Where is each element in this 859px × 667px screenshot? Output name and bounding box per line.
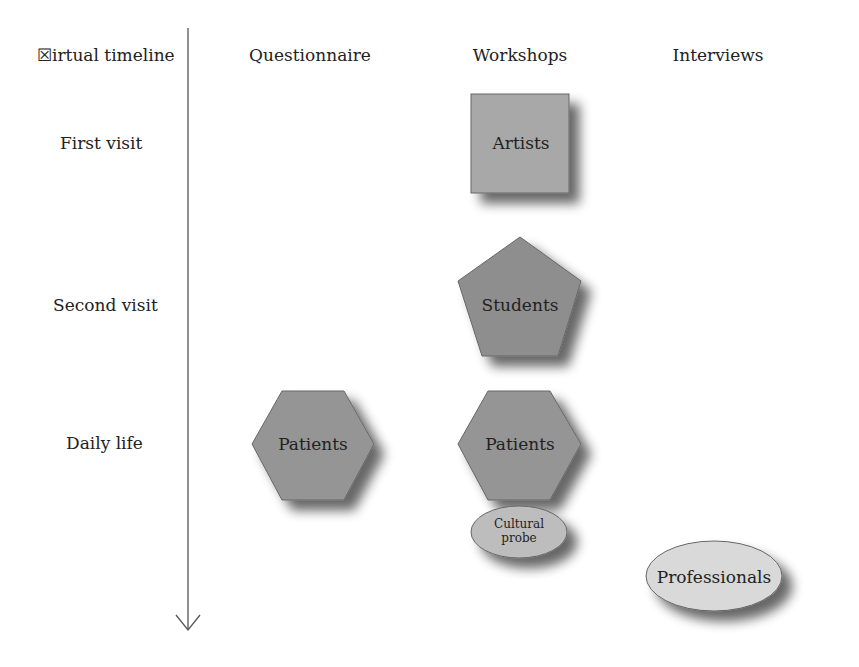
axis-title: ☒irtual timeline [37,45,175,65]
professionals-label: Professionals [657,567,772,587]
column-header-workshops: Workshops [473,45,568,65]
column-header-interviews: Interviews [672,45,763,65]
patients-workshops-label: Patients [485,434,555,454]
artists-label: Artists [493,133,550,153]
cultural-probe-label-line1: Cultural [494,517,544,531]
cultural-probe-label-line2: probe [494,531,544,545]
cultural-probe-label: Cultural probe [494,517,544,545]
column-header-questionnaire: Questionnaire [249,45,371,65]
timeline-arrow [176,28,200,630]
row-label-second-visit: Second visit [53,295,158,315]
patients-questionnaire-label: Patients [278,434,348,454]
students-label: Students [482,295,559,315]
row-label-daily-life: Daily life [66,433,143,453]
row-label-first-visit: First visit [60,133,142,153]
